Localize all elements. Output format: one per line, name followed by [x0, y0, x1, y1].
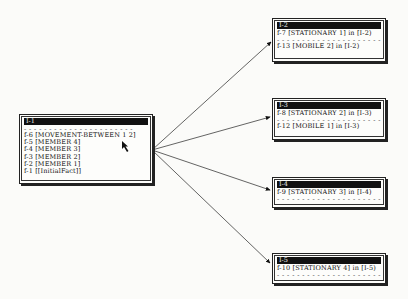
fact-row[interactable]: f-12 [MOBILE 1] in [I-3) [277, 123, 381, 130]
window-title: I-2 [277, 22, 381, 29]
target-window-i5[interactable]: I-5 f-10 [STATIONARY 4] in [I-5) - - - -… [272, 253, 386, 284]
fact-row[interactable]: f-1 [[InitialFact]] [24, 168, 148, 175]
source-window-i1[interactable]: I-1 - - - - - - - - - - - - - - - - - - … [19, 114, 153, 184]
window-title: I-3 [277, 102, 381, 109]
target-window-i3[interactable]: I-3 f-8 [STATIONARY 2] in [I-3) - - - - … [272, 98, 386, 140]
mouse-cursor-icon [121, 140, 131, 154]
edge-i1-i5 [152, 150, 270, 263]
separator: - - - - - - - - - - - - - - - - - - - - … [277, 196, 381, 202]
window-title: I-1 [24, 118, 148, 125]
target-window-i4[interactable]: I-4 f-9 [STATIONARY 3] in [I-4) - - - - … [272, 177, 386, 208]
window-title: I-5 [277, 257, 381, 264]
target-window-i2[interactable]: I-2 f-7 [STATIONARY 1] in [I-2) - - - - … [272, 18, 386, 62]
edge-i1-i4 [152, 150, 270, 190]
separator: - - - - - - - - - - - - - - - - - - - - … [277, 272, 381, 278]
edge-i1-i2 [152, 42, 271, 150]
window-title: I-4 [277, 181, 381, 188]
fact-row[interactable]: f-13 [MOBILE 2] in [I-2) [277, 43, 381, 50]
